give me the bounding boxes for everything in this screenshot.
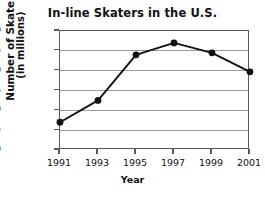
y-tick-mark (54, 129, 59, 130)
x-tick-mark (172, 149, 173, 154)
y-tick-label: $5 (0, 123, 1, 134)
x-tick-mark (210, 149, 211, 154)
x-tick-mark (248, 149, 249, 154)
y-tick-mark (54, 69, 59, 70)
data-point-marker (57, 119, 64, 126)
series-polyline (60, 43, 250, 122)
chart-title: In-line Skaters in the U.S. (0, 6, 265, 20)
data-series-line (60, 31, 250, 150)
chart-figure: In-line Skaters in the U.S. Number of Sk… (0, 0, 265, 197)
y-tick-label: $10 (0, 103, 1, 114)
x-axis-title: Year (0, 174, 265, 185)
y-tick-label: 0 (0, 143, 1, 154)
x-tick-mark (134, 149, 135, 154)
y-axis-title-line-2: (in millions) (16, 11, 27, 78)
data-point-marker (209, 49, 216, 56)
y-tick-label: $25 (0, 44, 1, 55)
x-tick-mark (58, 149, 59, 154)
y-tick-mark (54, 29, 59, 30)
plot-area (59, 30, 249, 149)
x-tick-mark (96, 149, 97, 154)
data-point-marker (171, 40, 178, 47)
y-tick-mark (54, 109, 59, 110)
y-tick-mark (54, 89, 59, 90)
x-tick-label: 2001 (227, 157, 265, 168)
data-point-marker (95, 97, 102, 104)
y-tick-label: $30 (0, 24, 1, 35)
data-point-marker (133, 51, 140, 58)
y-tick-label: $15 (0, 84, 1, 95)
data-point-marker (247, 68, 254, 75)
y-tick-mark (54, 49, 59, 50)
y-tick-label: $20 (0, 64, 1, 75)
y-axis-title: Number of Skaters (in millions) (1, 0, 31, 105)
